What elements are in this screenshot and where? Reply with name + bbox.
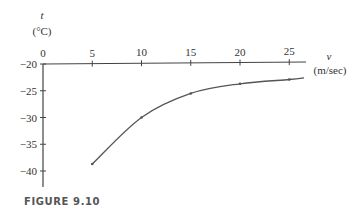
data-point bbox=[140, 116, 143, 119]
y-tick-label: −25 bbox=[20, 85, 38, 97]
data-point bbox=[189, 92, 192, 95]
y-axis-title: t bbox=[40, 9, 44, 21]
data-points bbox=[91, 78, 291, 165]
x-axis-unit: (m/sec) bbox=[314, 64, 347, 77]
x-tick-label: 5 bbox=[90, 47, 96, 59]
y-tick-label: −20 bbox=[20, 58, 38, 70]
chart: t (°C) v (m/sec) 0510152025 −20−25−30−35… bbox=[0, 0, 360, 218]
y-tick-label: −35 bbox=[20, 138, 38, 150]
figure-caption: FIGURE 9.10 bbox=[24, 196, 100, 207]
data-point bbox=[288, 78, 291, 81]
data-point bbox=[239, 82, 242, 85]
y-tick-label: −40 bbox=[20, 165, 38, 177]
x-tick-label: 10 bbox=[136, 46, 148, 58]
x-tick-label: 20 bbox=[235, 46, 247, 58]
x-axis-title: v bbox=[327, 50, 332, 62]
x-axis-line bbox=[43, 62, 306, 64]
x-tick-label: 15 bbox=[185, 46, 197, 58]
data-point bbox=[91, 163, 94, 166]
y-ticks: −20−25−30−35−40 bbox=[20, 58, 46, 177]
x-tick-label: 25 bbox=[284, 45, 296, 57]
x-tick-label: 0 bbox=[40, 47, 46, 59]
y-tick-label: −30 bbox=[20, 112, 38, 124]
data-curve bbox=[92, 78, 304, 164]
y-axis-unit: (°C) bbox=[32, 25, 51, 38]
